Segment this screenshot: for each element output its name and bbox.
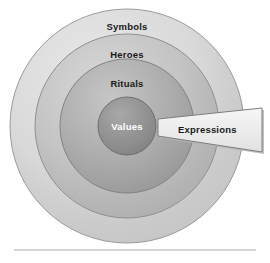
onion-culture-diagram: Symbols Heroes Rituals Values Expression… (0, 0, 270, 263)
diagram-canvas (0, 0, 270, 263)
ring-values-sheen (99, 98, 156, 155)
ring-values (98, 97, 156, 155)
